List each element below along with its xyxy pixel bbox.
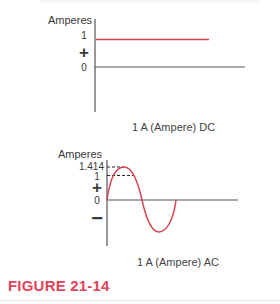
ac-caption: 1 A (Ampere) AC	[137, 256, 219, 268]
ac-chart: Amperes 1.414 1 + 0 −	[58, 148, 238, 246]
dc-tick-1: 1	[81, 30, 87, 41]
dc-caption: 1 A (Ampere) DC	[132, 121, 215, 133]
dc-y-axis-label: Amperes	[48, 14, 93, 26]
dc-chart: Amperes 1 + 0	[48, 14, 245, 112]
ac-tick-peak: 1.414	[79, 161, 104, 172]
ac-y-axis-label: Amperes	[58, 148, 103, 160]
bottom-divider	[0, 300, 280, 301]
figure-label: FIGURE 21-14	[8, 277, 110, 294]
ac-minus-sign: −	[91, 207, 103, 229]
dc-plus-sign: +	[79, 43, 89, 62]
ac-tick-0: 0	[94, 195, 100, 206]
dc-tick-0: 0	[81, 62, 87, 73]
